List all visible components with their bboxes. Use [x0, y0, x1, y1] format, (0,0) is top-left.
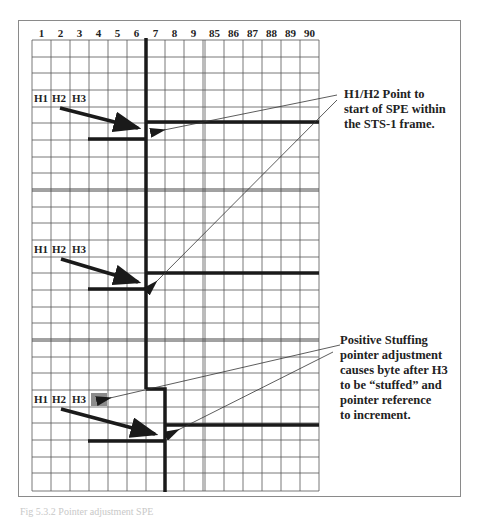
h3-label: H3 — [72, 92, 86, 104]
note-line: to be “stuffed” and — [340, 378, 448, 393]
h2-label: H2 — [52, 393, 66, 405]
h1-label: H1 — [34, 393, 48, 405]
note-line: pointer adjustment — [340, 348, 448, 363]
note-line: causes byte after H3 — [340, 363, 448, 378]
stuffed-byte — [91, 393, 107, 406]
h3-label: H3 — [72, 243, 86, 255]
note-line: to increment. — [340, 408, 448, 423]
pointer-note: H1/H2 Point to start of SPE within the S… — [344, 87, 446, 132]
note-line: pointer reference — [340, 393, 448, 408]
stuffing-note: Positive Stuffing pointer adjustment cau… — [340, 333, 448, 423]
h2-label: H2 — [52, 243, 66, 255]
h1-label: H1 — [34, 92, 48, 104]
figure-caption: Fig 5.3.2 Pointer adjustment SPE — [20, 506, 153, 517]
sts1-frame-grid — [0, 0, 479, 520]
note-line: H1/H2 Point to — [344, 87, 446, 102]
h2-label: H2 — [52, 92, 66, 104]
note-line: Positive Stuffing — [340, 333, 448, 348]
h1-label: H1 — [34, 243, 48, 255]
note-line: start of SPE within — [344, 102, 446, 117]
h3-label: H3 — [72, 393, 86, 405]
note-line: the STS-1 frame. — [344, 117, 446, 132]
